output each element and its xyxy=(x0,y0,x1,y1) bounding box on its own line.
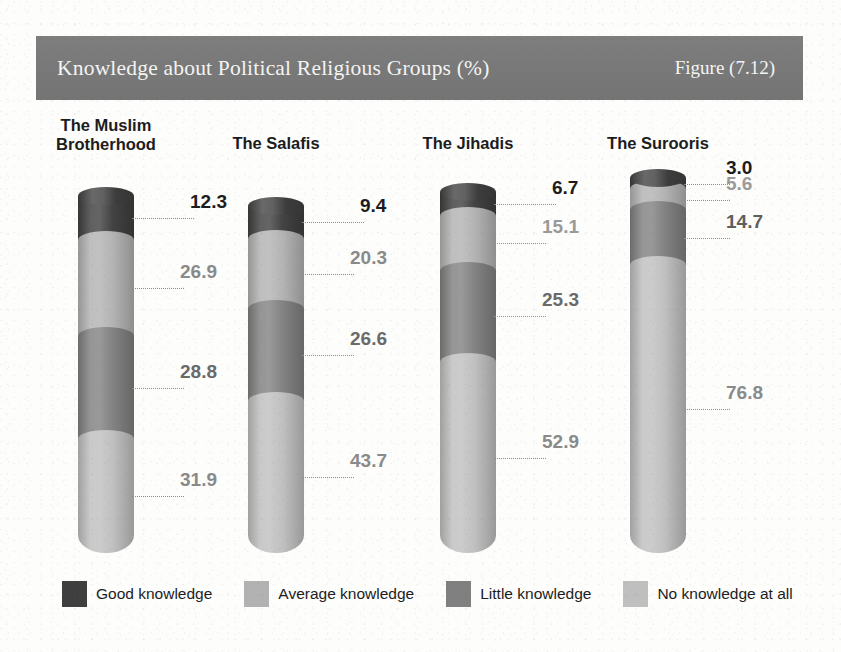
legend-item-2[interactable]: Average knowledge xyxy=(244,581,414,607)
page-title: Knowledge about Political Religious Grou… xyxy=(57,56,490,81)
category-label-line1: The Surooris xyxy=(607,134,709,153)
legend-item-1[interactable]: Good knowledge xyxy=(62,581,212,607)
segment-shading xyxy=(630,265,686,553)
legend-item-3[interactable]: Little knowledge xyxy=(446,581,591,607)
chart-plot-area: The MuslimBrotherhood12.326.928.831.9The… xyxy=(0,110,841,580)
value-leader-line xyxy=(684,184,730,185)
value-leader-line xyxy=(684,200,730,201)
chart-legend: Good knowledgeAverage knowledgeLittle kn… xyxy=(62,581,825,607)
category-label-4: The Surooris xyxy=(607,134,709,153)
bar-segment-4-2[interactable] xyxy=(630,189,686,210)
bar-group-4: The Surooris3.05.614.776.8 xyxy=(0,110,841,580)
legend-label-4: No knowledge at all xyxy=(657,585,792,603)
cap-shading xyxy=(630,169,686,187)
value-label-4-3: 14.7 xyxy=(726,212,763,231)
value-label-4-4: 76.8 xyxy=(726,383,763,402)
value-label-4-2: 5.6 xyxy=(726,174,752,193)
legend-label-2: Average knowledge xyxy=(278,585,414,603)
bar-segment-4-4[interactable] xyxy=(630,265,686,553)
value-leader-line xyxy=(684,238,730,239)
legend-item-4[interactable]: No knowledge at all xyxy=(623,581,792,607)
value-leader-line xyxy=(684,409,730,410)
bar-segment-4-3[interactable] xyxy=(630,210,686,265)
legend-swatch-2 xyxy=(244,581,269,607)
legend-swatch-1 xyxy=(62,581,87,607)
legend-label-3: Little knowledge xyxy=(480,585,591,603)
legend-swatch-4 xyxy=(623,581,648,607)
legend-swatch-3 xyxy=(446,581,471,607)
figure-number-label: Figure (7.12) xyxy=(675,57,775,79)
legend-label-1: Good knowledge xyxy=(96,585,212,603)
figure-header-band: Knowledge about Political Religious Grou… xyxy=(36,36,803,100)
cylinder-top-cap-4 xyxy=(630,169,686,187)
